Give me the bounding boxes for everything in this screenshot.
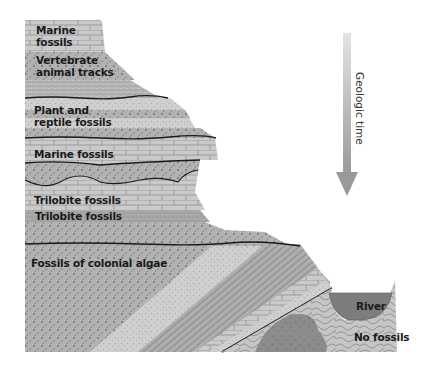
label-no-fossils: No fossils [354, 331, 409, 343]
label-geologic-time: Geologic time [354, 72, 366, 145]
label-line: Marine [36, 24, 76, 36]
label-marine-fossils: Marine fossils [34, 148, 114, 160]
label-vertebrate-tracks: Vertebrate animal tracks [36, 54, 114, 78]
label-trilobite-fossils-1: Trilobite fossils [34, 194, 121, 206]
label-line: reptile fossils [34, 116, 112, 128]
label-line: animal tracks [36, 66, 114, 78]
label-marine-fossils-top: Marine fossils [36, 24, 76, 48]
label-trilobite-fossils-2: Trilobite fossils [35, 210, 122, 222]
label-line: fossils [36, 36, 76, 48]
label-line: Plant and [34, 104, 112, 116]
label-river: River [356, 300, 386, 312]
label-plant-reptile-fossils: Plant and reptile fossils [34, 104, 112, 128]
label-line: Vertebrate [36, 54, 114, 66]
label-colonial-algae: Fossils of colonial algae [31, 257, 167, 269]
